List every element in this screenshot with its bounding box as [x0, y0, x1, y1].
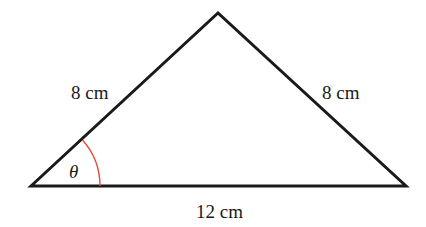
left-side-label: 8 cm [71, 82, 109, 103]
base-label: 12 cm [196, 201, 243, 222]
angle-theta-label: θ [69, 161, 78, 182]
triangle-diagram: θ 8 cm 8 cm 12 cm [0, 0, 426, 227]
angle-arc [83, 140, 101, 186]
right-side-label: 8 cm [322, 82, 360, 103]
